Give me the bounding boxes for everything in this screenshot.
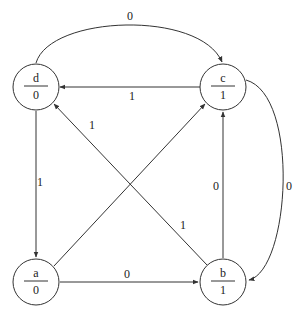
state-output-c: 1 xyxy=(220,88,226,102)
state-diagram: 0 1 1 1 0 0 1 0 d 0 c 1 a 0 b 1 xyxy=(0,0,305,319)
state-node-a: a 0 xyxy=(13,259,59,305)
state-output-b: 1 xyxy=(220,283,226,297)
edge-d-to-c-arc xyxy=(36,25,222,63)
edge-label-d-a: 1 xyxy=(37,175,43,189)
state-name-b: b xyxy=(220,266,226,280)
state-output-a: 0 xyxy=(33,283,39,297)
state-output-d: 0 xyxy=(33,88,39,102)
state-name-a: a xyxy=(33,266,39,280)
state-name-d: d xyxy=(33,71,39,85)
edge-label-c-b: 0 xyxy=(286,179,292,193)
edge-label-b-d-upper: 1 xyxy=(89,118,95,132)
edge-label-a-b: 0 xyxy=(124,267,130,281)
state-node-b: b 1 xyxy=(200,259,246,305)
edge-label-b-d-lower: 1 xyxy=(180,218,186,232)
state-node-d: d 0 xyxy=(13,64,59,110)
edge-label-c-d: 1 xyxy=(129,89,135,103)
state-name-c: c xyxy=(220,71,225,85)
edge-label-d-c: 0 xyxy=(127,9,133,23)
state-node-c: c 1 xyxy=(200,64,246,110)
edge-label-b-c: 0 xyxy=(213,179,219,193)
edge-c-to-b-arc xyxy=(246,80,283,280)
